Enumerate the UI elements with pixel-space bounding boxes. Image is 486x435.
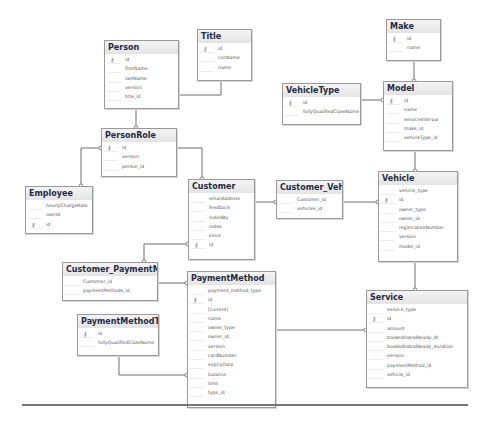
column-row[interactable]: payment_method_type [188,286,275,295]
column-row[interactable]: fullyQualifiedClassName [283,107,360,116]
column-row[interactable]: fullyQualifiedClassName [78,338,158,347]
column-row[interactable]: vehicleType_id [384,133,452,142]
column-row[interactable]: bookedInAndReady_duration [367,342,467,351]
column-row[interactable]: ⚷id [198,44,251,53]
column-row[interactable]: conName [198,53,251,62]
table-person[interactable]: Person⚷idfirstNamelastNameversiontitle_i… [104,40,179,109]
column-row[interactable]: expiryDate [188,360,275,369]
column-row[interactable]: owner_type [379,205,457,214]
column-row[interactable]: userId [26,210,92,219]
table-title[interactable]: PaymentMethodType [78,315,158,328]
column-row[interactable]: paymentMethod_id [367,361,467,370]
column-row[interactable]: lastName [105,74,178,83]
column-row[interactable]: firstName [105,64,178,73]
relationship-paymentmethod-paymentmethodtype[interactable] [119,354,187,375]
table-title[interactable]: Service [367,291,467,304]
column-row[interactable]: version [379,232,457,241]
column-row[interactable]: name [384,105,452,114]
column-row[interactable]: emailAddress [189,194,254,203]
column-row[interactable]: version [367,351,467,360]
column-row[interactable]: Customer_id [63,277,157,286]
relationship-person-title[interactable] [177,79,221,95]
column-row[interactable]: person_id [102,162,176,171]
column-row[interactable]: ⚷id [367,314,467,323]
table-title[interactable]: Make [387,20,440,33]
column-row[interactable]: bookedInAndReady_dt [367,333,467,342]
column-row[interactable]: feedback [189,203,254,212]
column-row[interactable]: amount [367,324,467,333]
column-row[interactable]: name [198,63,251,72]
column-row[interactable]: notes [189,222,254,231]
table-model[interactable]: Model⚷idnameserviceIntervalmake_idvehicl… [383,81,453,151]
column-row[interactable]: cardNumber [188,351,275,360]
table-title[interactable]: VehicleType [283,84,360,97]
column-row[interactable]: ⚷id [78,329,158,338]
table-employee[interactable]: EmployeehourlyChargeRateuserId⚷id [25,186,93,234]
relationship-customer_paymentmethod-customer[interactable] [144,244,188,262]
column-row[interactable]: ⚷id [26,220,92,229]
table-personrole[interactable]: PersonRole⚷idversionperson_id [101,128,177,177]
table-title[interactable]: Person [105,41,178,54]
table-paymentmethodtype[interactable]: PaymentMethodType⚷idfullyQualifiedClassN… [77,314,159,356]
column-row[interactable]: ⚷id [283,98,360,107]
row-selector [200,64,214,72]
column-row[interactable]: owner_id [379,214,457,223]
column-row[interactable]: ⚷id [189,240,254,249]
column-row[interactable]: ⚷id [384,96,452,105]
column-row[interactable]: balance [188,370,275,379]
column-row[interactable]: notedBy [189,213,254,222]
column-row[interactable]: title_id [105,92,178,101]
table-title[interactable]: Employee [26,187,92,200]
column-row[interactable]: version [188,342,275,351]
column-row[interactable]: model_id [379,242,457,251]
table-title[interactable]: Title [198,30,251,43]
column-row[interactable]: make_id [384,124,452,133]
table-title[interactable]: PersonRole [102,129,176,142]
column-row[interactable]: ⚷id [387,34,440,43]
table-title[interactable]: Title⚷idconNamename [197,29,252,81]
column-name: version [399,232,416,241]
column-row[interactable]: registrationNumber [379,223,457,232]
column-row[interactable]: version [105,83,178,92]
column-row[interactable]: Customer_id [277,195,342,204]
table-title[interactable]: PaymentMethod [188,272,275,285]
column-row[interactable]: ⚷id [105,55,178,64]
table-title[interactable]: Model [384,82,452,95]
column-row[interactable]: owner_id [188,332,275,341]
table-customer_paymentmethod[interactable]: Customer_PaymentMethodCustomer_idpayment… [62,262,158,301]
table-paymentmethod[interactable]: PaymentMethodpayment_method_type⚷id[curr… [187,271,276,408]
table-vehicletype[interactable]: VehicleType⚷idfullyQualifiedClassName [282,83,361,125]
column-row[interactable]: ⚷id [102,143,176,152]
column-row[interactable]: paymentMethods_id [63,286,157,295]
column-row[interactable]: vehicles_id [277,204,342,213]
column-name: Customer_id [83,277,112,286]
column-row[interactable]: version [102,152,176,161]
table-make[interactable]: Make⚷idname [386,19,441,61]
relationship-personrole-customer[interactable] [175,148,202,179]
column-row[interactable]: since [189,231,254,240]
column-row[interactable]: ⚷id [379,195,457,204]
column-row[interactable]: type_id [188,388,275,397]
column-row[interactable]: name [387,43,440,52]
relationship-personrole-employee[interactable] [81,148,101,186]
column-row[interactable]: owner_type [188,323,275,332]
table-service[interactable]: Serviceservice_type⚷idamountbookedInAndR… [366,290,468,388]
row-selector [386,116,400,124]
column-row[interactable]: serviceInterval [384,115,452,124]
column-row[interactable]: [current] [188,305,275,314]
table-title[interactable]: Vehicle [379,172,457,185]
column-row[interactable]: name [188,314,275,323]
column-name: limit [208,379,218,388]
column-row[interactable]: ⚷id [188,295,275,304]
table-title[interactable]: Customer_PaymentMethod [63,263,157,276]
column-row[interactable]: vehicle_type [379,186,457,195]
column-row[interactable]: service_type [367,305,467,314]
table-customer_vehicle[interactable]: Customer_VehicleCustomer_idvehicles_id [276,180,343,219]
column-row[interactable]: limit [188,379,275,388]
table-title[interactable]: Customer_Vehicle [277,181,342,194]
column-row[interactable]: vehicle_id [367,370,467,379]
table-title[interactable]: Customer [189,180,254,193]
column-row[interactable]: hourlyChargeRate [26,201,92,210]
table-vehicle[interactable]: Vehiclevehicle_type⚷idowner_typeowner_id… [378,171,458,262]
table-customer[interactable]: CustomeremailAddressfeedbacknotedBynotes… [188,179,255,260]
